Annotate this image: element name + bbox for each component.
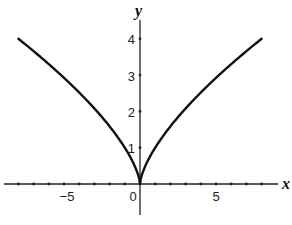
y-axis-label: y [133, 2, 143, 20]
x-axis-label: x [281, 175, 290, 192]
y-tick [139, 37, 142, 40]
x-tick-label-5: 5 [212, 189, 219, 204]
x-tick [32, 183, 35, 186]
x-tick [108, 183, 111, 186]
x-tick [260, 183, 263, 186]
x-tick [215, 183, 218, 186]
x-tick [184, 183, 187, 186]
x-tick [93, 183, 96, 186]
y-tick-label-4: 4 [128, 32, 135, 47]
y-tick-label-3: 3 [128, 69, 135, 84]
x-tick [17, 183, 20, 186]
x-tick [78, 183, 81, 186]
x-tick-label-0: 0 [129, 189, 136, 204]
chart: −5 0 5 1 2 3 4 x y [0, 0, 292, 225]
x-tick [245, 183, 248, 186]
y-tick-label-1: 1 [128, 141, 135, 156]
x-tick [169, 183, 172, 186]
x-tick [63, 183, 66, 186]
x-tick [230, 183, 233, 186]
y-tick [139, 74, 142, 77]
x-tick [123, 183, 126, 186]
x-tick [199, 183, 202, 186]
y-tick-label-2: 2 [128, 105, 135, 120]
y-tick [139, 110, 142, 113]
y-tick [139, 146, 142, 149]
x-tick-label-neg5: −5 [60, 189, 75, 204]
x-tick [154, 183, 157, 186]
x-tick [47, 183, 50, 186]
